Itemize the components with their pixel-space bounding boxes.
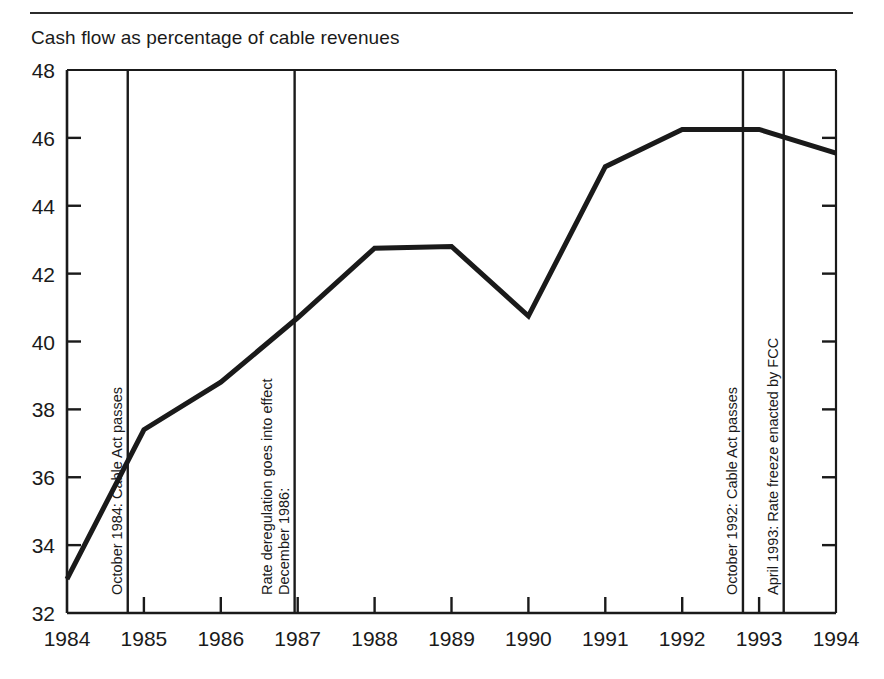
y-tick-label: 36	[32, 466, 55, 489]
annotation-label: Rate deregulation goes into effect	[259, 378, 275, 595]
y-axis-ticks	[67, 138, 836, 545]
figure-container: Cash flow as percentage of cable revenue…	[0, 0, 884, 679]
annotation-label: December 1986:	[276, 488, 292, 595]
annotation-label: April 1993: Rate freeze enacted by FCC	[765, 338, 781, 595]
x-tick-label: 1984	[44, 627, 91, 650]
y-tick-label: 34	[32, 534, 56, 557]
x-tick-label: 1993	[736, 627, 783, 650]
y-tick-label: 44	[32, 195, 56, 218]
x-tick-label: 1991	[582, 627, 629, 650]
y-tick-label: 46	[32, 127, 55, 150]
x-tick-label: 1992	[659, 627, 706, 650]
series-polyline	[67, 129, 836, 579]
x-tick-label: 1986	[197, 627, 244, 650]
x-tick-label: 1994	[813, 627, 860, 650]
axis-frame	[67, 70, 836, 613]
x-tick-label: 1989	[428, 627, 475, 650]
x-axis-ticks	[144, 597, 759, 613]
x-tick-label: 1990	[505, 627, 552, 650]
y-tick-label: 40	[32, 331, 55, 354]
line-chart-plot: 323436384042444648 198419851986198719881…	[0, 0, 884, 679]
x-tick-label: 1985	[121, 627, 168, 650]
y-tick-label: 42	[32, 263, 55, 286]
x-tick-label: 1988	[351, 627, 398, 650]
x-axis-tick-labels: 1984198519861987198819891990199119921993…	[44, 627, 860, 650]
annotation-labels: October 1984: Cable Act passesDecember 1…	[109, 338, 781, 595]
x-tick-label: 1987	[274, 627, 321, 650]
y-axis-tick-labels: 323436384042444648	[32, 59, 56, 625]
y-tick-label: 48	[32, 59, 55, 82]
annotation-lines	[128, 70, 784, 613]
y-tick-label: 38	[32, 398, 55, 421]
y-tick-label: 32	[32, 602, 55, 625]
data-series-line	[67, 129, 836, 579]
annotation-label: October 1992: Cable Act passes	[724, 387, 740, 595]
